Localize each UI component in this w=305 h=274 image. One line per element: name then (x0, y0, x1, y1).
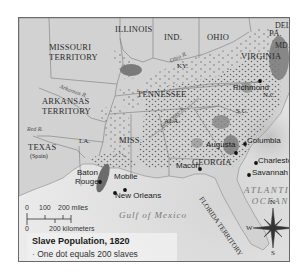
label-city-charleston: Charleston (258, 157, 290, 165)
scale-km-200: 200 kilometers (49, 225, 95, 232)
map-legend: Slave Population, 1820 · One dot equals … (27, 233, 177, 261)
label-city-baton-rouge-1: Baton (77, 169, 98, 177)
label-kentucky: KY. (177, 63, 188, 70)
scale-miles-0: 0 (25, 204, 29, 211)
label-city-columbia: Columbia (247, 137, 281, 145)
label-city-baton-rouge-2: Rouge (75, 178, 99, 186)
label-mississippi: MISS. (119, 136, 142, 145)
label-illinois: ILLINOIS (115, 25, 152, 34)
label-maryland: MD. (275, 42, 290, 50)
label-missouri-territory-2: TERRITORY (49, 53, 98, 62)
label-red-river: Red R. (27, 126, 43, 132)
label-pennsylvania: PA. (269, 29, 282, 38)
compass-north: N (270, 198, 275, 206)
label-city-macon: Macon (176, 162, 200, 170)
label-missouri-territory-1: MISSOURI (49, 43, 91, 52)
label-arkansas-territory-2: TERRITORY (42, 107, 91, 116)
label-delaware: DEL. (275, 22, 290, 30)
label-ohio: OHIO (207, 33, 229, 42)
scale-miles-200: 200 miles (58, 204, 88, 211)
compass-south: S (271, 249, 275, 257)
scale-km-0: 0 (25, 225, 29, 232)
label-city-savannah: Savannah (252, 169, 288, 177)
label-texas-spain: (Spain) (30, 153, 48, 159)
label-indiana: IND. (164, 33, 182, 42)
label-atlantic-ocean: ATLANTIC OCEAN (244, 186, 290, 206)
label-louisiana: LA. (79, 138, 90, 145)
map-frame: ILLINOIS IND. OHIO PA. DEL. MD. MISSOURI… (18, 17, 290, 262)
label-north-carolina: N.C. (263, 92, 276, 99)
label-south-carolina: S.C. (236, 108, 248, 115)
label-virginia: VIRGINIA (241, 52, 281, 61)
label-city-new-orleans: New Orleans (115, 192, 161, 200)
label-ocean: OCEAN (244, 197, 290, 206)
label-city-augusta: Augusta (206, 141, 235, 149)
legend-item-dot: · One dot equals 200 slaves (32, 249, 138, 259)
label-atlantic: ATLANTIC (244, 186, 290, 195)
scale-miles-100: 100 (39, 204, 51, 211)
label-tennessee: TENNESSEE (137, 90, 187, 99)
label-city-richmond: Richmond (233, 84, 269, 92)
label-gulf-of-mexico: Gulf of Mexico (119, 211, 187, 220)
label-city-mobile: Mobile (114, 173, 138, 181)
legend-item-label: One dot equals 200 slaves (37, 249, 138, 259)
label-texas: TEXAS (28, 143, 56, 152)
compass-west: W (246, 224, 253, 232)
legend-title: Slave Population, 1820 (32, 236, 130, 246)
label-arkansas-territory-1: ARKANSAS (42, 97, 89, 106)
